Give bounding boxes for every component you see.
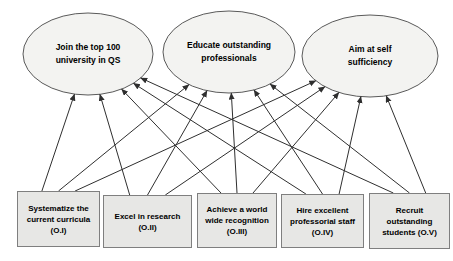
goal-label-3-line-1: Aim at self: [300, 43, 440, 56]
objective-box-5: Recruit outstanding students (O.V): [369, 193, 450, 249]
objective-box-1: Systematize the current curricula (O.I): [17, 191, 100, 247]
edge-O.II-to-G2: [148, 91, 208, 195]
edge-O.II-to-G1: [100, 94, 130, 195]
goal-label-3: Aim at self sufficiency: [300, 43, 440, 69]
goal-label-1-line-2: university in QS: [18, 54, 158, 67]
objective-box-3-label: Achieve a world wide recognition (O.III): [203, 204, 271, 237]
edge-O.III-to-G1: [122, 89, 221, 193]
goal-label-1-line-1: Join the top 100: [18, 41, 158, 54]
edge-O.II-to-G3: [165, 87, 325, 195]
objective-box-2-label: Excel in research (O.II): [109, 211, 186, 233]
goal-label-2-line-1: Educate outstanding: [159, 39, 299, 52]
objective-box-2: Excel in research (O.II): [103, 195, 192, 248]
objective-box-4: Hire excellent professorial staff (O.IV): [281, 194, 364, 248]
edge-O.IV-to-G1: [134, 83, 306, 194]
diagram-canvas: Join the top 100 university in QS Educat…: [0, 0, 453, 261]
objective-box-4-label: Hire excellent professorial staff (O.IV): [287, 205, 358, 238]
edge-O.III-to-G2: [231, 93, 237, 193]
objective-box-1-label: Systematize the current curricula (O.I): [23, 203, 94, 236]
goal-label-1: Join the top 100 university in QS: [18, 41, 158, 67]
edge-O.V-to-G3: [386, 96, 426, 193]
goal-label-2: Educate outstanding professionals: [159, 39, 299, 65]
edge-O.I-to-G1: [42, 94, 75, 191]
objective-box-3: Achieve a world wide recognition (O.III): [197, 193, 277, 248]
edge-O.IV-to-G3: [339, 97, 361, 194]
goal-label-2-line-2: professionals: [159, 52, 299, 65]
edge-O.IV-to-G2: [254, 90, 323, 194]
objective-box-5-label: Recruit outstanding students (O.V): [375, 205, 444, 238]
goal-label-3-line-2: sufficiency: [300, 56, 440, 69]
